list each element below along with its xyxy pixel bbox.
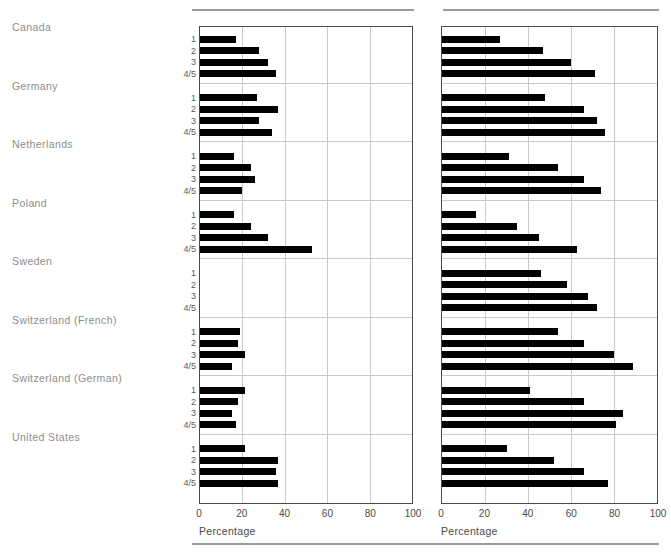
country-label: United States (12, 431, 80, 443)
bar (200, 211, 234, 218)
x-axis-tick-label: 20 (479, 508, 490, 519)
bar (200, 36, 236, 43)
bar (200, 328, 240, 335)
bar (442, 129, 605, 136)
left-plot-panel (199, 26, 413, 504)
bar (442, 304, 597, 311)
bar (200, 70, 276, 77)
country-label: Germany (12, 80, 58, 92)
bar (442, 340, 584, 347)
bar (442, 480, 608, 487)
category-tick-label: 1 (191, 445, 196, 454)
bar (200, 340, 238, 347)
bar (442, 70, 595, 77)
category-tick-label: 4/5 (183, 128, 196, 137)
category-tick-label: 2 (191, 281, 196, 290)
bar (442, 106, 584, 113)
category-tick-label: 1 (191, 152, 196, 161)
gridline-vertical (327, 27, 328, 503)
bar (442, 328, 558, 335)
category-tick-label: 2 (191, 105, 196, 114)
category-tick-label: 3 (191, 175, 196, 184)
bar (442, 387, 530, 394)
category-tick-label: 1 (191, 328, 196, 337)
gridline-horizontal (442, 317, 657, 318)
x-axis-left: 020406080100 (199, 508, 413, 522)
bar (442, 153, 509, 160)
x-axis-tick-label: 60 (322, 508, 333, 519)
country-label: Netherlands (12, 138, 73, 150)
bar (200, 94, 257, 101)
bar (442, 246, 577, 253)
bar (200, 410, 232, 417)
bar (442, 176, 584, 183)
x-axis-tick-label: 100 (650, 508, 667, 519)
gridline-horizontal (200, 375, 412, 376)
right-plot-panel (441, 26, 658, 504)
category-tick-label: 4/5 (183, 479, 196, 488)
bar (442, 293, 588, 300)
bar (200, 246, 312, 253)
bar (200, 47, 259, 54)
bar (442, 457, 554, 464)
bottom-rule (192, 543, 659, 545)
bar (200, 457, 278, 464)
category-tick-label: 2 (191, 222, 196, 231)
x-axis-right: 020406080100 (441, 508, 658, 522)
category-tick-label: 2 (191, 339, 196, 348)
category-tick-label: 3 (191, 351, 196, 360)
x-axis-title-right: Percentage (441, 525, 498, 537)
category-tick-label: 2 (191, 164, 196, 173)
country-label: Canada (12, 21, 51, 33)
bar (442, 117, 597, 124)
bar (442, 281, 567, 288)
bar (442, 164, 558, 171)
bar (200, 480, 278, 487)
bar (200, 351, 245, 358)
bar (442, 59, 571, 66)
bar (442, 468, 584, 475)
category-tick-label: 3 (191, 117, 196, 126)
gridline-horizontal (442, 141, 657, 142)
country-label: Switzerland (French) (12, 314, 117, 326)
gridline-horizontal (200, 83, 412, 84)
category-tick-label: 4/5 (183, 70, 196, 79)
gridline-horizontal (200, 200, 412, 201)
category-tick-label: 2 (191, 398, 196, 407)
x-axis-tick-label: 60 (566, 508, 577, 519)
bar (200, 129, 272, 136)
x-axis-title-left: Percentage (199, 525, 256, 537)
gridline-horizontal (442, 200, 657, 201)
category-tick-label: 3 (191, 292, 196, 301)
gridline-horizontal (200, 317, 412, 318)
bar (200, 445, 245, 452)
bar (200, 117, 259, 124)
bar (442, 363, 633, 370)
x-axis-tick-label: 20 (236, 508, 247, 519)
bar (442, 351, 614, 358)
category-tick-label: 4/5 (183, 362, 196, 371)
category-tick-label: 2 (191, 456, 196, 465)
country-label: Sweden (12, 255, 52, 267)
gridline-horizontal (442, 375, 657, 376)
gridline-horizontal (442, 258, 657, 259)
bar (442, 36, 500, 43)
bar (200, 106, 278, 113)
category-tick-label: 3 (191, 234, 196, 243)
bar (442, 187, 601, 194)
category-tick-label: 4/5 (183, 187, 196, 196)
gridline-vertical (285, 27, 286, 503)
gridline-horizontal (200, 141, 412, 142)
category-tick-label: 4/5 (183, 421, 196, 430)
bar (442, 234, 539, 241)
category-tick-label: 1 (191, 269, 196, 278)
x-axis-tick-label: 80 (365, 508, 376, 519)
category-tick-label: 1 (191, 211, 196, 220)
gridline-vertical (370, 27, 371, 503)
category-tick-label: 4/5 (183, 304, 196, 313)
category-tick-label: 3 (191, 409, 196, 418)
bar (442, 211, 476, 218)
bar (442, 398, 584, 405)
gridline-horizontal (442, 434, 657, 435)
bar (200, 59, 268, 66)
